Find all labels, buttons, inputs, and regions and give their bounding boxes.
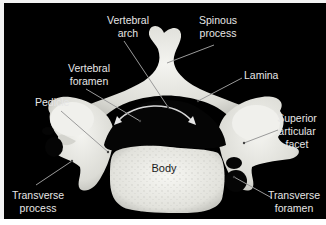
label-body-line1: Body [151, 162, 176, 175]
left-transverse-foramen-small [42, 127, 54, 135]
vertebra-illustration [4, 3, 326, 219]
label-vertebral-foramen-line1: Vertebral [68, 62, 110, 75]
label-spinous-process: Spinous process [199, 14, 237, 40]
right-facet [232, 105, 280, 141]
label-facet-line2: articular [277, 125, 317, 138]
right-transverse-foramen [225, 170, 247, 192]
label-transverse-foramen: Transverse foramen [268, 189, 320, 215]
label-transverse-process-line1: Transverse [12, 189, 64, 202]
label-body: Body [151, 162, 176, 175]
label-vertebral-foramen-line2: foramen [68, 75, 110, 88]
label-superior-articular-facet: Superior articular facet [277, 112, 317, 151]
label-lamina-line1: Lamina [244, 69, 278, 82]
vertebra-photo: Vertebral arch Spinous process Vertebral… [4, 3, 326, 219]
label-transverse-foramen-line2: foramen [268, 202, 320, 215]
label-facet-line1: Superior [277, 112, 317, 125]
label-transverse-process-line2: process [12, 202, 64, 215]
label-facet-line3: facet [277, 138, 317, 151]
left-transverse-foramen [45, 137, 63, 157]
label-transverse-process: Transverse process [12, 189, 64, 215]
label-vertebral-foramen: Vertebral foramen [68, 62, 110, 88]
label-transverse-foramen-line1: Transverse [268, 189, 320, 202]
body-texture [110, 146, 225, 213]
label-spinous-process-line2: process [199, 27, 237, 40]
label-pedicle: Pedicle [35, 96, 69, 109]
leader-transverse-process [36, 161, 72, 185]
label-lamina: Lamina [244, 69, 278, 82]
label-vertebral-arch: Vertebral arch [107, 14, 149, 40]
label-vertebral-arch-line2: arch [107, 27, 149, 40]
right-transverse-foramen-small [226, 157, 242, 169]
label-spinous-process-line1: Spinous [199, 14, 237, 27]
bottom-margin [0, 219, 326, 225]
label-pedicle-line1: Pedicle [35, 96, 69, 109]
vertebral-foramen-shape [104, 100, 226, 150]
label-vertebral-arch-line1: Vertebral [107, 14, 149, 27]
